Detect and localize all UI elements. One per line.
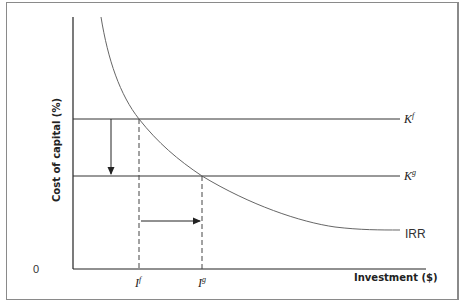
- if-label-sup: f: [139, 275, 141, 284]
- origin-label: 0: [33, 264, 39, 275]
- kg-label-base: K: [404, 169, 412, 183]
- chart-canvas: [0, 0, 471, 305]
- y-axis-label: Cost of capital (%): [51, 98, 62, 202]
- kf-label: Kf: [404, 112, 414, 125]
- ig-label: Ig: [198, 276, 206, 289]
- kf-label-base: K: [404, 112, 412, 126]
- kg-label-sup: g: [412, 168, 416, 177]
- x-axis-label: Investment ($): [354, 273, 438, 283]
- if-label: If: [135, 276, 141, 289]
- kg-label: Kg: [404, 169, 416, 182]
- ig-label-sup: g: [202, 275, 206, 284]
- kf-label-sup: f: [412, 111, 414, 120]
- irr-label: IRR: [405, 228, 426, 240]
- irr-curve: [101, 17, 400, 230]
